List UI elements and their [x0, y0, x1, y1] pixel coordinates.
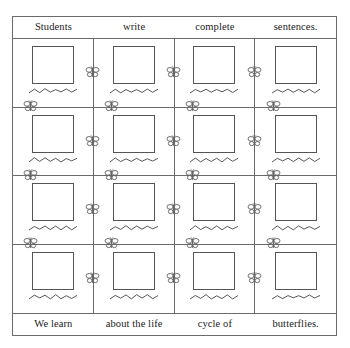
- draw-write-cell[interactable]: [255, 245, 336, 314]
- writing-squiggle: [27, 293, 79, 302]
- writing-squiggle: [188, 224, 240, 233]
- drawing-box[interactable]: [193, 252, 235, 290]
- draw-write-cell[interactable]: [175, 245, 256, 314]
- draw-write-cell[interactable]: [13, 39, 94, 108]
- writing-squiggle: [188, 156, 240, 165]
- drawing-box[interactable]: [113, 183, 155, 221]
- drawing-box[interactable]: [113, 252, 155, 290]
- draw-write-cell[interactable]: [13, 245, 94, 314]
- header-word-2: write: [94, 22, 175, 33]
- drawing-box[interactable]: [32, 115, 74, 153]
- drawing-box[interactable]: [32, 252, 74, 290]
- footer-word-4: butterflies.: [255, 319, 336, 330]
- drawing-box[interactable]: [275, 252, 317, 290]
- draw-write-cell[interactable]: [13, 176, 94, 245]
- drawing-box[interactable]: [193, 183, 235, 221]
- draw-write-cell[interactable]: [175, 39, 256, 108]
- header-sentence-strip: Students write complete sentences.: [13, 17, 336, 39]
- draw-write-cell[interactable]: [175, 108, 256, 177]
- writing-squiggle: [270, 293, 322, 302]
- writing-squiggle: [270, 224, 322, 233]
- writing-squiggle: [27, 87, 79, 96]
- writing-squiggle: [188, 293, 240, 302]
- drawing-box[interactable]: [113, 115, 155, 153]
- footer-word-2: about the life: [94, 319, 175, 330]
- drawing-box[interactable]: [193, 115, 235, 153]
- drawing-box[interactable]: [275, 115, 317, 153]
- draw-write-cell[interactable]: [255, 108, 336, 177]
- writing-squiggle: [27, 156, 79, 165]
- drawing-box[interactable]: [32, 183, 74, 221]
- header-word-1: Students: [13, 22, 94, 33]
- writing-squiggle: [108, 293, 160, 302]
- footer-sentence-strip: We learn about the life cycle of butterf…: [13, 313, 336, 335]
- draw-write-cell[interactable]: [94, 108, 175, 177]
- draw-write-cell[interactable]: [175, 176, 256, 245]
- draw-write-cell[interactable]: [255, 39, 336, 108]
- header-word-4: sentences.: [255, 22, 336, 33]
- drawing-box[interactable]: [113, 46, 155, 84]
- top-cropped-text: [14, 0, 336, 7]
- drawing-box[interactable]: [275, 46, 317, 84]
- footer-word-3: cycle of: [175, 319, 256, 330]
- writing-squiggle: [108, 224, 160, 233]
- writing-squiggle: [270, 87, 322, 96]
- writing-squiggle: [108, 156, 160, 165]
- draw-write-cell[interactable]: [94, 245, 175, 314]
- writing-squiggle: [27, 224, 79, 233]
- cell-grid: [13, 39, 336, 313]
- writing-squiggle: [270, 156, 322, 165]
- header-word-3: complete: [175, 22, 256, 33]
- writing-squiggle: [108, 87, 160, 96]
- draw-write-cell[interactable]: [94, 176, 175, 245]
- footer-word-1: We learn: [13, 319, 94, 330]
- drawing-box[interactable]: [193, 46, 235, 84]
- drawing-box[interactable]: [275, 183, 317, 221]
- drawing-box[interactable]: [32, 46, 74, 84]
- worksheet-frame: Students write complete sentences. We le…: [12, 16, 337, 336]
- draw-write-cell[interactable]: [94, 39, 175, 108]
- draw-write-cell[interactable]: [13, 108, 94, 177]
- writing-squiggle: [188, 87, 240, 96]
- draw-write-cell[interactable]: [255, 176, 336, 245]
